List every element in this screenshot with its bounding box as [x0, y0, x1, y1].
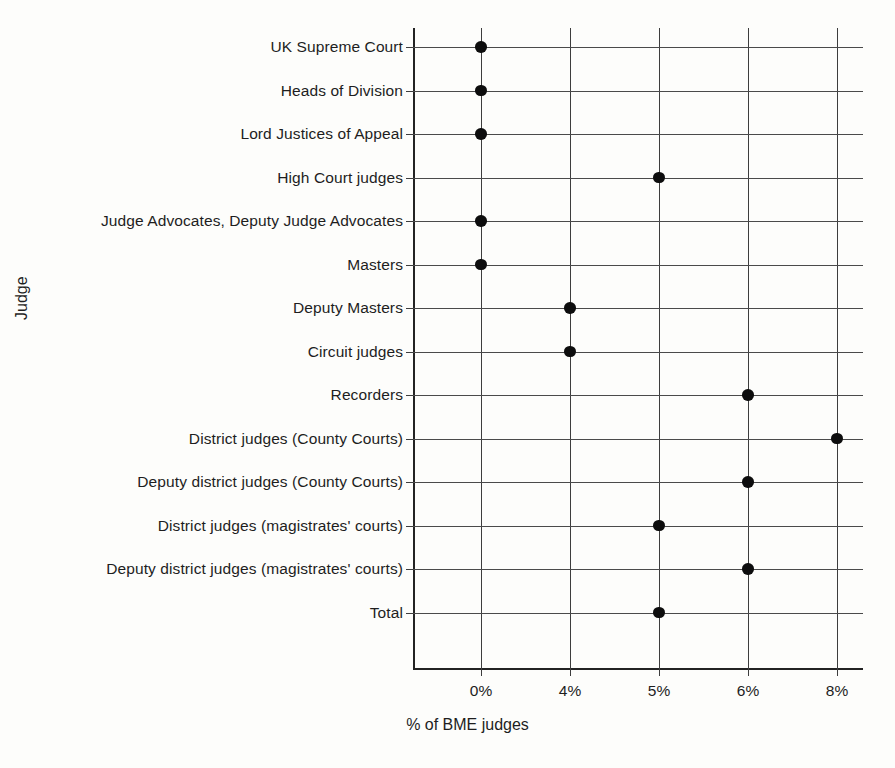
y-axis-tick-label: Circuit judges	[308, 344, 403, 360]
x-axis-tick-label: 4%	[559, 683, 581, 699]
gridline-horizontal	[413, 613, 863, 614]
y-axis-tick-label: Masters	[347, 257, 403, 273]
gridline-horizontal	[413, 178, 863, 179]
gridline-vertical	[481, 28, 482, 668]
x-axis-tick-mark	[570, 668, 571, 676]
data-point	[475, 215, 487, 227]
y-axis-tick-label: High Court judges	[277, 170, 403, 186]
y-axis-tick-mark	[406, 178, 413, 179]
x-axis-title: % of BME judges	[0, 716, 895, 734]
y-axis-tick-label: Heads of Division	[281, 83, 403, 99]
data-point	[564, 302, 576, 314]
y-axis-tick-mark	[406, 134, 413, 135]
x-axis-tick-mark	[837, 668, 838, 676]
y-axis-tick-label: Recorders	[331, 387, 403, 403]
y-axis-tick-mark	[406, 526, 413, 527]
x-axis-tick-label: 6%	[737, 683, 759, 699]
y-axis-tick-mark	[406, 221, 413, 222]
data-point	[653, 607, 665, 619]
y-axis-tick-mark	[406, 613, 413, 614]
y-axis-tick-mark	[406, 265, 413, 266]
x-axis-tick-mark	[748, 668, 749, 676]
y-axis-tick-label: District judges (magistrates' courts)	[158, 518, 403, 534]
data-point	[653, 520, 665, 532]
y-axis-tick-label: UK Supreme Court	[270, 39, 403, 55]
y-axis-tick-label: Deputy district judges (County Courts)	[137, 474, 403, 490]
y-axis-tick-mark	[406, 395, 413, 396]
gridline-horizontal	[413, 482, 863, 483]
y-axis-tick-label: Lord Justices of Appeal	[240, 126, 403, 142]
plot-area	[413, 28, 863, 668]
y-axis-spine	[413, 28, 415, 670]
y-axis-tick-mark	[406, 439, 413, 440]
data-point	[831, 433, 843, 445]
y-axis-tick-labels: UK Supreme CourtHeads of DivisionLord Ju…	[0, 28, 403, 668]
data-point	[475, 259, 487, 271]
y-axis-tick-label: Deputy district judges (magistrates' cou…	[106, 561, 403, 577]
data-point	[475, 41, 487, 53]
data-point	[742, 476, 754, 488]
y-axis-tick-mark	[406, 482, 413, 483]
data-point	[475, 85, 487, 97]
data-point	[475, 128, 487, 140]
gridline-vertical	[837, 28, 838, 668]
gridline-vertical	[659, 28, 660, 668]
y-axis-tick-label: Total	[370, 605, 403, 621]
y-axis-tick-mark	[406, 91, 413, 92]
data-point	[564, 346, 576, 358]
gridline-horizontal	[413, 526, 863, 527]
x-axis-tick-label: 5%	[648, 683, 670, 699]
gridline-horizontal	[413, 395, 863, 396]
y-axis-tick-mark	[406, 352, 413, 353]
x-axis-tick-mark	[659, 668, 660, 676]
y-axis-tick-mark	[406, 47, 413, 48]
x-axis-tick-mark	[481, 668, 482, 676]
y-axis-tick-label: Deputy Masters	[293, 300, 403, 316]
y-axis-tick-mark	[406, 569, 413, 570]
data-point	[742, 563, 754, 575]
gridline-horizontal	[413, 569, 863, 570]
bme-judges-dot-chart: Judge UK Supreme CourtHeads of DivisionL…	[0, 0, 895, 768]
data-point	[653, 172, 665, 184]
gridline-horizontal	[413, 439, 863, 440]
y-axis-tick-label: District judges (County Courts)	[189, 431, 403, 447]
y-axis-tick-label: Judge Advocates, Deputy Judge Advocates	[101, 213, 403, 229]
x-axis-tick-label: 0%	[470, 683, 492, 699]
gridline-horizontal	[413, 308, 863, 309]
data-point	[742, 389, 754, 401]
y-axis-tick-mark	[406, 308, 413, 309]
x-axis-title-text: % of BME judges	[406, 716, 529, 733]
gridline-horizontal	[413, 352, 863, 353]
x-axis-tick-label: 8%	[826, 683, 848, 699]
